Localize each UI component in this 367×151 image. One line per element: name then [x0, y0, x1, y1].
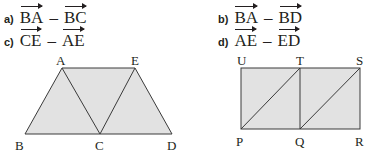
vertex-label-e: E	[131, 53, 139, 68]
vertex-label-d: D	[167, 138, 176, 151]
figures-canvas: A E B C D U T S P Q R	[0, 0, 367, 151]
vertex-label-a: A	[56, 53, 66, 68]
figure-trapezoid: A E B C D	[15, 53, 176, 151]
figure-rectangle: U T S P Q R	[236, 53, 364, 149]
vertex-label-u: U	[237, 53, 247, 68]
vertex-label-r: R	[355, 134, 364, 149]
vertex-label-b: B	[15, 138, 24, 151]
vertex-label-c: C	[95, 138, 104, 151]
trapezoid-shape	[25, 68, 172, 134]
vertex-label-p: P	[236, 134, 243, 149]
vertex-label-s: S	[356, 53, 363, 68]
vertex-label-t: T	[296, 53, 304, 68]
vertex-label-q: Q	[295, 134, 305, 149]
